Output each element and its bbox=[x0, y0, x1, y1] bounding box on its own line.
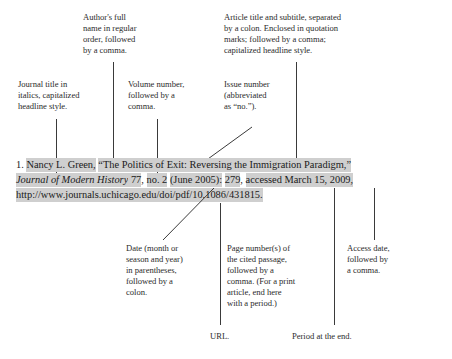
leader-line-period bbox=[334, 203, 335, 325]
leader-line-url bbox=[220, 203, 221, 325]
leader-line-access-date bbox=[374, 188, 375, 240]
diagram-canvas: Author's full name in regular order, fol… bbox=[0, 0, 452, 359]
leader-line-date bbox=[0, 0, 452, 359]
